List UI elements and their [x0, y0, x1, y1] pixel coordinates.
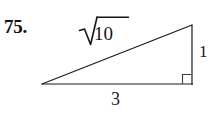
radicand-value: 10 — [94, 23, 113, 44]
right-angle-square-icon — [183, 75, 192, 84]
base-leg-label: 3 — [111, 90, 120, 108]
vertical-leg-label: 1 — [199, 43, 208, 61]
geometry-figure: 75. 10 1 3 — [0, 0, 220, 117]
hypotenuse-label: 10 — [78, 13, 132, 47]
